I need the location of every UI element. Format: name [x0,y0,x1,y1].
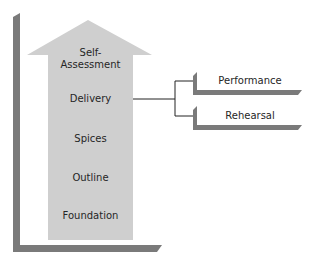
step-self-assessment: Self- Assessment [48,47,133,71]
step-foundation: Foundation [48,210,133,222]
step-spices: Spices [48,133,133,145]
frame-vertical-bar [13,13,20,252]
diagram-graphics [0,0,314,263]
branch-rehearsal: Rehearsal [200,110,300,121]
frame-horizontal-bar [13,245,162,252]
step-self-assessment-line2: Assessment [48,59,133,71]
step-delivery: Delivery [48,93,133,105]
branch-performance: Performance [200,75,300,86]
step-self-assessment-line1: Self- [48,47,133,59]
step-outline: Outline [48,172,133,184]
